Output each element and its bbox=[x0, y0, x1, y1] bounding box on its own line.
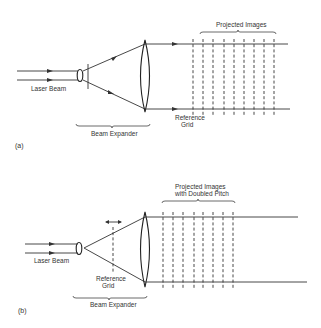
projected-images-a bbox=[193, 39, 274, 115]
projected-images-b bbox=[163, 212, 233, 288]
laser-beam-label: Laser Beam bbox=[31, 85, 66, 92]
reference-grid-label: Reference bbox=[175, 114, 205, 121]
panel-b: Laser Beam Reference Grid bbox=[18, 183, 307, 315]
arrow-icon bbox=[172, 42, 178, 46]
arrow-icon bbox=[111, 56, 117, 61]
reference-grid-label-2: Grid bbox=[181, 121, 194, 128]
beam-expander-brace bbox=[76, 124, 150, 128]
panel-b-label: (b) bbox=[18, 307, 27, 315]
projected-images-label: Projected Images bbox=[216, 21, 267, 29]
arrow-icon bbox=[47, 78, 53, 82]
projected-images-brace bbox=[200, 30, 276, 34]
panel-a: Laser Beam Projected I bbox=[15, 21, 290, 150]
projected-images-brace bbox=[162, 199, 235, 203]
arrow-icon bbox=[108, 90, 114, 94]
collimating-lens bbox=[77, 70, 83, 82]
arrow-icon bbox=[47, 69, 53, 73]
laser-beam-a bbox=[17, 69, 78, 82]
expander-lens bbox=[141, 212, 150, 287]
beam-expander-label: Beam Expander bbox=[91, 130, 138, 138]
arrow-icon bbox=[49, 242, 55, 246]
double-arrow-icon bbox=[105, 220, 122, 224]
laser-beam-b bbox=[25, 242, 78, 255]
beam-expander-label: Beam Expander bbox=[90, 301, 137, 309]
laser-beam-label: Laser Beam bbox=[34, 257, 69, 264]
arrow-icon bbox=[49, 251, 55, 255]
expander-lens bbox=[141, 40, 150, 112]
reference-grid-label: Reference bbox=[96, 275, 126, 282]
beam-expander-brace bbox=[73, 296, 147, 300]
reference-grid-label-2: Grid bbox=[102, 282, 115, 289]
panel-a-label: (a) bbox=[15, 142, 24, 150]
arrow-icon bbox=[172, 107, 178, 111]
optical-setup-diagram: Laser Beam Projected I bbox=[0, 0, 321, 328]
collimating-lens bbox=[76, 243, 82, 255]
projected-images-label-2: with Doubled Pitch bbox=[174, 190, 229, 197]
